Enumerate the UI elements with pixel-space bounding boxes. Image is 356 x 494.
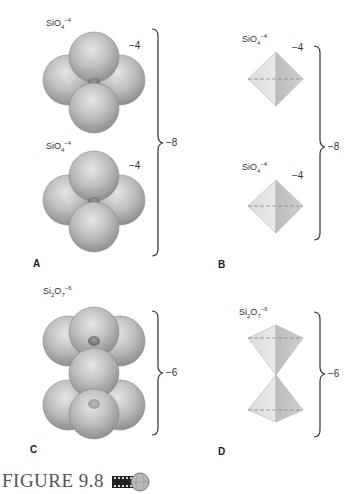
video-film-globe-icon[interactable] <box>112 472 152 494</box>
charge-b-top: −4 <box>292 42 303 53</box>
brace-d <box>314 312 325 437</box>
total-charge-d: −6 <box>328 368 339 379</box>
panel-label-b: B <box>218 259 225 270</box>
charge-b-bottom: −4 <box>292 170 303 181</box>
total-charge-a: −8 <box>166 137 177 148</box>
diagram-canvas <box>0 0 356 494</box>
si2o7-sphere-model-c <box>43 307 145 439</box>
panel-label-a: A <box>33 258 40 269</box>
charge-a-top: −4 <box>129 40 140 51</box>
figure-caption: FIGURE 9.8 <box>2 470 104 492</box>
brace-b <box>314 46 325 240</box>
formula-sio4-a-top: SiO4−4 <box>46 17 71 30</box>
sio4-tetrahedron-b-top <box>248 52 303 106</box>
si2o7-tetrahedra-d <box>248 325 303 422</box>
charge-a-bottom: −4 <box>129 160 140 171</box>
panel-label-c: C <box>30 444 37 455</box>
sio4-tetrahedron-b-bottom <box>248 180 303 233</box>
formula-sio4-b-bottom: SiO4−4 <box>242 161 267 174</box>
total-charge-c: −6 <box>166 367 177 378</box>
formula-si2o7-c: Si2O7−6 <box>43 285 72 298</box>
brace-a <box>152 29 163 256</box>
total-charge-b: −8 <box>328 141 339 152</box>
formula-sio4-a-bottom: SiO4−4 <box>46 140 71 153</box>
formula-si2o7-d: Si2O7−6 <box>239 306 268 319</box>
panel-label-d: D <box>218 446 225 457</box>
brace-c <box>152 311 163 435</box>
formula-sio4-b-top: SiO4−4 <box>242 33 267 46</box>
